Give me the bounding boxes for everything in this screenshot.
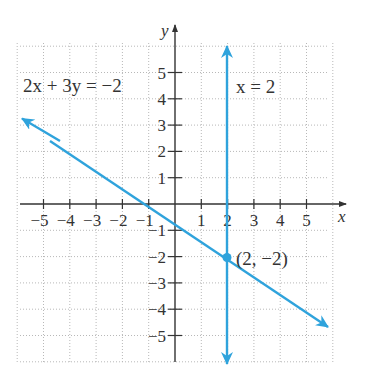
equation-label-line1: 2x + 3y = −2 <box>23 75 122 96</box>
y-tick-label: 3 <box>158 116 167 135</box>
y-tick-label: 5 <box>158 64 167 83</box>
line-2x-plus-3y-eq-neg2 <box>50 141 328 327</box>
equation-label-line2-text: x = 2 <box>236 76 275 97</box>
y-tick-label: −5 <box>148 327 166 346</box>
x-tick-label: 4 <box>276 211 285 230</box>
x-tick-label: 3 <box>250 211 259 230</box>
x-tick-label: −3 <box>83 211 101 230</box>
y-axis-label: y <box>159 21 169 40</box>
y-tick-label: 1 <box>158 169 167 188</box>
equation-label-line2: x = 2 <box>236 76 275 97</box>
x-tick-label: −4 <box>57 211 76 230</box>
y-tick-label: −4 <box>148 300 167 319</box>
x-tick-label: 1 <box>197 211 206 230</box>
coordinate-graph: −5−4−3−2−112345 54321−1−2−3−4−5 x y 2x +… <box>0 0 366 369</box>
y-tick-label: −3 <box>148 274 166 293</box>
y-tick-label: −2 <box>148 248 166 267</box>
equation-label-line1-text: 2x + 3y = −2 <box>23 75 122 96</box>
x-axis-label: x <box>337 207 346 226</box>
y-tick-label: 2 <box>158 142 167 161</box>
x-tick-label: −5 <box>30 211 48 230</box>
point-label: (2, −2) <box>236 248 288 270</box>
intersection-point <box>223 253 232 262</box>
y-tick-label: 4 <box>158 90 167 109</box>
line-2x-plus-3y-eq-neg2 <box>22 119 60 142</box>
x-tick-label: −2 <box>109 211 127 230</box>
y-tick-label: −1 <box>148 221 166 240</box>
x-tick-label: 5 <box>302 211 311 230</box>
